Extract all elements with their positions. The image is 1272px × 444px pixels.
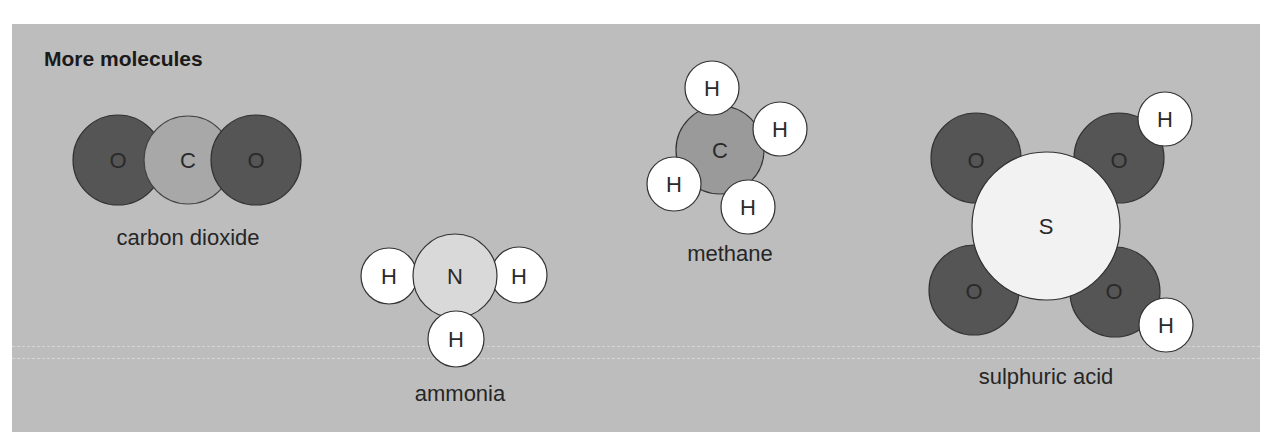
molecule-ammonia: N H H H ammonia xyxy=(361,234,547,406)
molecules-diagram: O C O carbon dioxide N H H H ammonia C H… xyxy=(0,0,1272,444)
atom-symbol: H xyxy=(704,76,720,101)
molecule-label: carbon dioxide xyxy=(116,225,259,250)
molecule-label: methane xyxy=(687,241,773,266)
molecule-label: sulphuric acid xyxy=(979,364,1114,389)
atom-symbol: O xyxy=(967,148,984,173)
atom-symbol: H xyxy=(1158,313,1174,338)
atom-symbol: O xyxy=(247,148,264,173)
atom-symbol: N xyxy=(447,264,463,289)
atom-symbol: O xyxy=(1110,148,1127,173)
atom-symbol: H xyxy=(772,117,788,142)
molecule-sulphuric-acid: S O O O O H H sulphuric acid xyxy=(929,92,1193,389)
atom-symbol: H xyxy=(740,195,756,220)
molecule-carbon-dioxide: O C O carbon dioxide xyxy=(73,115,301,250)
molecule-methane: C H H H H methane xyxy=(647,61,807,266)
atom-symbol: H xyxy=(1157,107,1173,132)
atom-symbol: O xyxy=(1105,279,1122,304)
atom-symbol: C xyxy=(180,148,196,173)
atom-symbol: H xyxy=(448,327,464,352)
atom-symbol: S xyxy=(1039,214,1054,239)
atom-symbol: O xyxy=(109,148,126,173)
atom-symbol: C xyxy=(712,138,728,163)
atom-symbol: H xyxy=(511,264,527,289)
molecule-label: ammonia xyxy=(415,381,506,406)
atom-symbol: H xyxy=(381,264,397,289)
atom-symbol: H xyxy=(666,172,682,197)
atom-symbol: O xyxy=(965,279,982,304)
